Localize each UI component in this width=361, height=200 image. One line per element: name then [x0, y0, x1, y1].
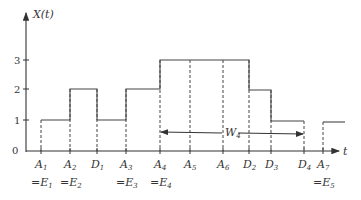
- y-tick-1: 1: [14, 115, 20, 126]
- event-label-a3: A3: [119, 158, 133, 172]
- event-eq-label-e5: =E5: [313, 176, 335, 190]
- w4-arrow-right: [238, 133, 303, 134]
- event-label-d4: D4: [297, 158, 311, 172]
- event-eq-label-e4: =E4: [150, 176, 172, 190]
- event-label-d3: D3: [264, 158, 279, 172]
- event-eq-label-e2: =E2: [60, 176, 82, 190]
- w4-label: W4: [225, 126, 241, 140]
- event-eq-label-e3: =E3: [116, 176, 138, 190]
- event-label-a2: A2: [63, 158, 77, 172]
- event-label-d1: D1: [90, 158, 104, 172]
- event-labels: A1=E1A2=E2D1A3=E3A4=E4A5A6D2D3D4A7=E5: [31, 158, 335, 190]
- event-label-a1: A1: [34, 158, 47, 172]
- event-label-a4: A4: [153, 158, 166, 172]
- event-label-a7: A7: [316, 158, 330, 172]
- y-axis-label: X(t): [32, 8, 54, 21]
- event-dashed-lines: [41, 60, 323, 151]
- w4-arrow-left: [161, 132, 222, 133]
- event-label-a5: A5: [183, 158, 197, 172]
- y-tick-0: 0: [12, 145, 18, 156]
- step-chart: X(t) t 0 1 2 3: [0, 0, 361, 200]
- y-tick-2: 2: [14, 84, 20, 95]
- event-eq-label-e1: =E1: [31, 176, 53, 190]
- x-axis-label: t: [343, 145, 348, 158]
- step-function: [41, 60, 304, 121]
- y-tick-3: 3: [14, 55, 20, 66]
- event-label-a6: A6: [216, 158, 230, 172]
- event-label-d2: D2: [242, 158, 257, 172]
